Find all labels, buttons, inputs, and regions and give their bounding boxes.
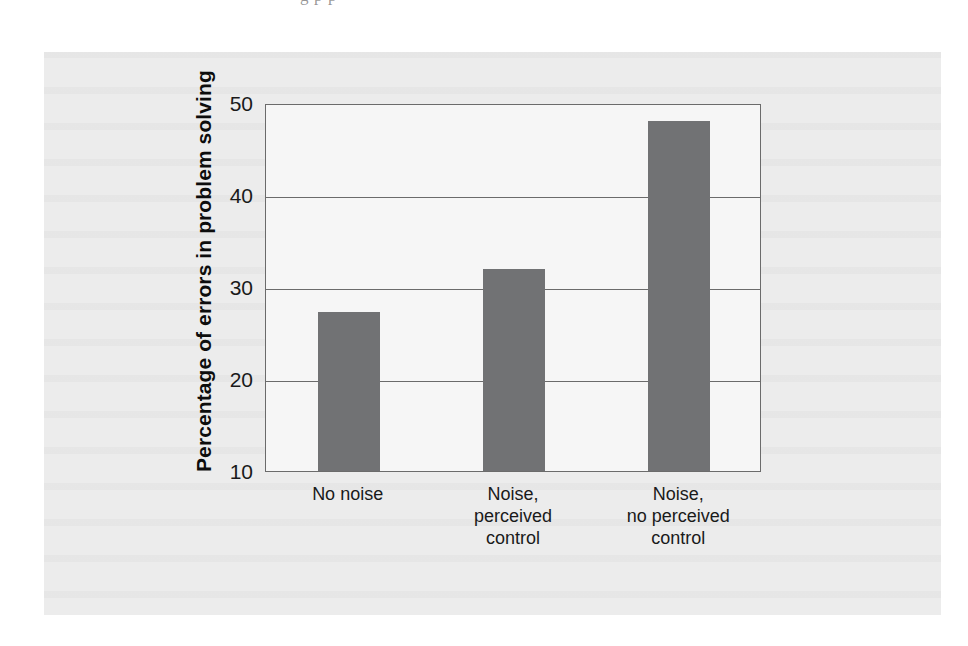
plot-area [265, 104, 761, 472]
y-tick-label-40: 40 [185, 185, 253, 206]
bar-chart: Percentage of errors in problem solving … [44, 52, 941, 615]
y-tick-label-10: 10 [185, 461, 253, 482]
figure-panel: Percentage of errors in problem solving … [44, 52, 941, 615]
y-tick-label-20: 20 [185, 369, 253, 390]
y-tick-label-50: 50 [185, 93, 253, 114]
bar [483, 269, 545, 471]
bar [648, 121, 710, 471]
page-bleed-above-figure: g p p [0, 0, 968, 34]
bar [318, 312, 380, 471]
bars-layer [266, 105, 760, 471]
x-tick-label: Noise, no perceived control [568, 484, 788, 550]
y-tick-label-30: 30 [185, 277, 253, 298]
page-bleed-text: g p p [300, 0, 940, 6]
